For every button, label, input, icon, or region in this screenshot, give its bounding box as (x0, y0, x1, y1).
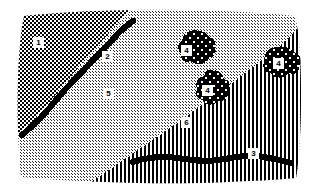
map-body (0, 0, 314, 194)
region-label-1: 1 (33, 37, 44, 48)
region-label-2: 2 (102, 51, 113, 62)
blob-label-4-b: 4 (202, 85, 213, 96)
blob-label-4-c: 4 (273, 58, 284, 69)
region-label-6: 6 (181, 117, 192, 128)
region-label-5: 5 (103, 88, 114, 99)
patterned-region-map: 1 2 3 4 4 4 5 6 (0, 0, 314, 194)
line-label-3: 3 (248, 148, 259, 159)
blob-label-4-a: 4 (181, 45, 192, 56)
map-canvas (0, 0, 314, 194)
